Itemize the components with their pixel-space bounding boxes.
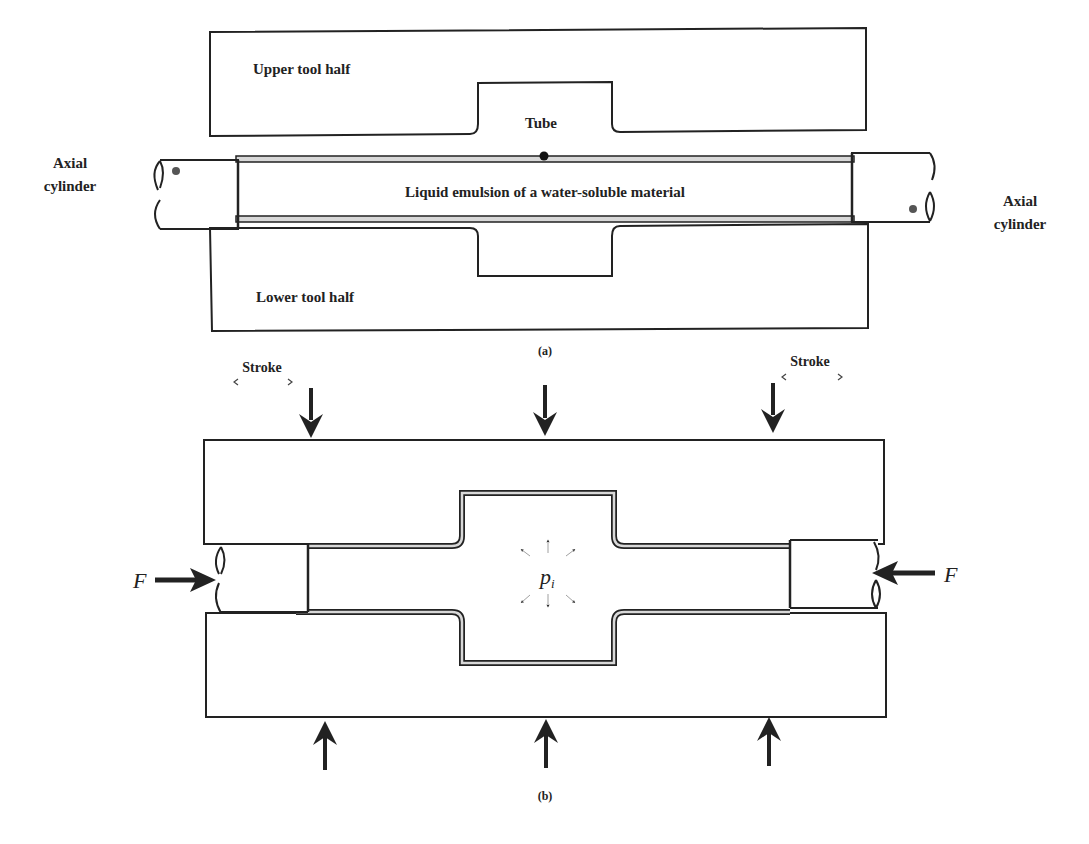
force-arrow-left [155, 568, 216, 592]
plunger-left [216, 544, 308, 613]
label-axial-cylinder-right-1: Axial [1003, 193, 1037, 209]
clamping-arrows-top [299, 383, 785, 438]
caption-a: (a) [538, 344, 552, 358]
label-force-left: F [132, 568, 147, 593]
label-liquid-emulsion: Liquid emulsion of a water-soluble mater… [405, 184, 685, 200]
stroke-indicator-right [782, 374, 842, 380]
label-lower-tool-half: Lower tool half [256, 289, 355, 305]
label-tube: Tube [525, 115, 557, 131]
label-axial-cylinder-right-2: cylinder [994, 216, 1047, 232]
panel-b: pi F F Stroke [132, 354, 958, 803]
hydroforming-diagram: Upper tool half Tube Liquid emulsion of … [0, 0, 1089, 844]
label-axial-cylinder-left-1: Axial [53, 155, 87, 171]
axial-cylinder-right [852, 153, 935, 222]
label-stroke-right: Stroke [790, 354, 829, 369]
force-arrow-right [872, 561, 935, 585]
label-stroke-left: Stroke [242, 360, 281, 375]
lower-tool-half [210, 224, 868, 331]
clamping-arrows-bottom [313, 717, 781, 770]
label-force-right: F [943, 562, 958, 587]
label-upper-tool-half: Upper tool half [253, 61, 351, 77]
plunger-right [790, 540, 880, 608]
label-axial-cylinder-left-2: cylinder [44, 178, 97, 194]
panel-a: Upper tool half Tube Liquid emulsion of … [44, 28, 1047, 358]
tube-marker-dot [540, 152, 549, 161]
axial-cylinder-left [154, 160, 238, 229]
caption-b: (b) [538, 789, 553, 803]
stroke-indicator-left [234, 379, 292, 385]
